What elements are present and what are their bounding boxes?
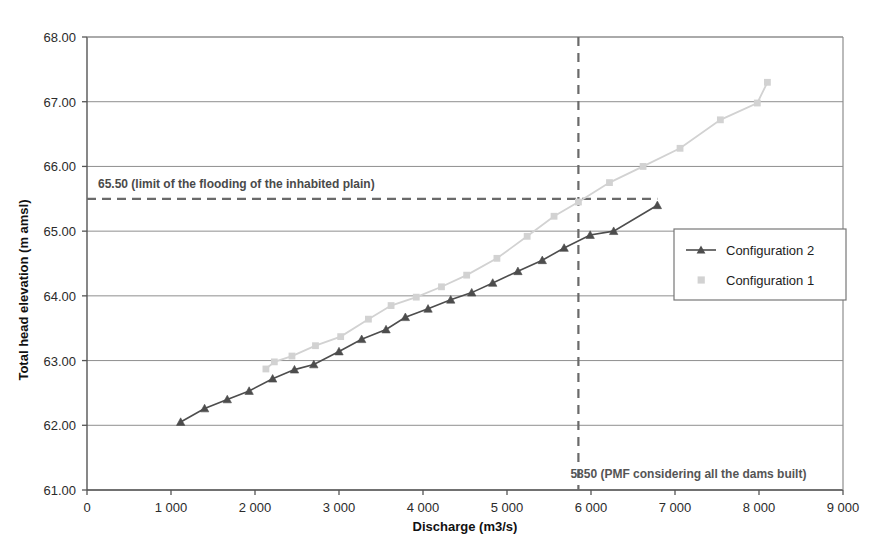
legend-box bbox=[674, 229, 846, 300]
y-tick-label: 67.00 bbox=[43, 95, 76, 110]
x-tick-label: 1 000 bbox=[155, 500, 188, 515]
y-tick-label: 68.00 bbox=[43, 30, 76, 45]
y-tick-label: 64.00 bbox=[43, 289, 76, 304]
y-tick-label: 63.00 bbox=[43, 354, 76, 369]
data-point-marker bbox=[717, 116, 724, 123]
y-tick-label: 66.00 bbox=[43, 159, 76, 174]
data-point-marker bbox=[289, 353, 296, 360]
data-point-marker bbox=[764, 79, 771, 86]
data-point-marker bbox=[312, 342, 319, 349]
data-point-marker bbox=[677, 145, 684, 152]
data-point-marker bbox=[494, 255, 501, 262]
y-tick-label: 65.00 bbox=[43, 224, 76, 239]
data-point-marker bbox=[463, 272, 470, 279]
legend-square-marker bbox=[698, 276, 705, 283]
chart-container: 61.0062.0063.0064.0065.0066.0067.0068.00… bbox=[0, 0, 892, 559]
legend-item-label: Configuration 2 bbox=[726, 243, 814, 258]
x-tick-label: 8 000 bbox=[743, 500, 776, 515]
data-point-marker bbox=[606, 179, 613, 186]
data-point-marker bbox=[413, 294, 420, 301]
data-point-marker bbox=[337, 333, 344, 340]
flood-limit-label: 65.50 (limit of the flooding of the inha… bbox=[98, 177, 375, 191]
x-tick-label: 6 000 bbox=[575, 500, 608, 515]
y-tick-label: 62.00 bbox=[43, 418, 76, 433]
chart-legend[interactable]: Configuration 2Configuration 1 bbox=[674, 229, 846, 300]
data-point-marker bbox=[438, 283, 445, 290]
x-tick-label: 0 bbox=[83, 500, 90, 515]
data-point-marker bbox=[388, 302, 395, 309]
data-point-marker bbox=[754, 100, 761, 107]
data-point-marker bbox=[365, 316, 372, 323]
data-point-marker bbox=[575, 199, 582, 206]
x-tick-label: 5 000 bbox=[491, 500, 524, 515]
x-tick-label: 2 000 bbox=[239, 500, 272, 515]
data-point-marker bbox=[271, 358, 278, 365]
data-point-marker bbox=[524, 233, 531, 240]
data-point-marker bbox=[263, 366, 270, 373]
x-tick-label: 9 000 bbox=[827, 500, 860, 515]
y-axis-title: Total head elevation (m amsl) bbox=[16, 199, 31, 380]
x-tick-label: 4 000 bbox=[407, 500, 440, 515]
data-point-marker bbox=[640, 163, 647, 170]
x-tick-label: 7 000 bbox=[659, 500, 692, 515]
data-point-marker bbox=[551, 213, 558, 220]
x-tick-label: 3 000 bbox=[323, 500, 356, 515]
pmf-label: 5850 (PMF considering all the dams built… bbox=[570, 467, 806, 481]
x-axis-title: Discharge (m3/s) bbox=[413, 519, 518, 534]
y-tick-label: 61.00 bbox=[43, 483, 76, 498]
line-chart: 61.0062.0063.0064.0065.0066.0067.0068.00… bbox=[0, 0, 892, 559]
legend-item-label: Configuration 1 bbox=[726, 273, 814, 288]
